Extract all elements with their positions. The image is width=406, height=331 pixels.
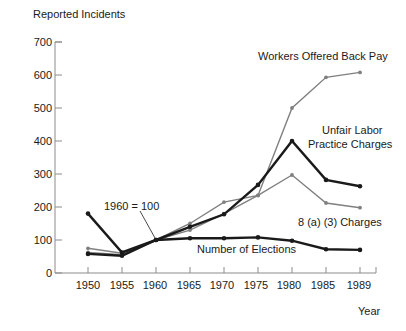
chart-container: Reported Incidents Year 700 600 500 400 …	[0, 0, 406, 331]
annotation-leader-line	[140, 211, 155, 238]
series-workers-offered-back-pay	[86, 71, 362, 256]
plot-area	[0, 0, 406, 331]
series-number-of-elections	[86, 235, 363, 258]
series-layer	[86, 71, 363, 259]
